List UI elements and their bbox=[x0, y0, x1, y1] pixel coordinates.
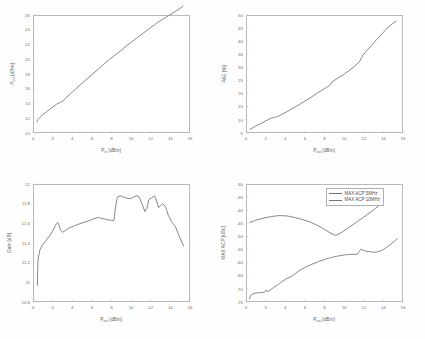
y-tick-label: -40 bbox=[237, 208, 244, 213]
x-tick-label: 8 bbox=[323, 136, 326, 141]
x-tick-label: 6 bbox=[304, 136, 307, 141]
y-tick-label: -60 bbox=[237, 260, 244, 265]
y-tick-label: -45 bbox=[237, 221, 244, 226]
y-tick-label: -75 bbox=[237, 300, 244, 305]
legend-maxacp[interactable]: MAX ACP 5MHz MAX ACP 10MHz bbox=[326, 188, 384, 206]
x-tick-label: 0 bbox=[32, 136, 35, 141]
x-tick-label: 2 bbox=[51, 136, 54, 141]
x-tick-label: 2 bbox=[51, 305, 54, 310]
y-tick-label: -50 bbox=[237, 234, 244, 239]
x-tick-label: 14 bbox=[168, 136, 173, 141]
x-tick-label: 14 bbox=[381, 136, 386, 141]
y-tick-label: 45 bbox=[238, 26, 243, 31]
x-tick-label: 4 bbox=[284, 136, 287, 141]
legend-label-10mhz: MAX ACP 10MHz bbox=[345, 197, 380, 204]
plot-svg-pout-vs-pin: 0246810121416101214161820222426 bbox=[0, 0, 213, 170]
y-tick-label: 26 bbox=[25, 13, 30, 18]
data-curve-gain bbox=[37, 196, 183, 285]
legend-line-10mhz-icon bbox=[329, 200, 342, 201]
x-tick-label: 10 bbox=[129, 136, 134, 141]
y-tick-label: 24 bbox=[25, 27, 30, 32]
y-tick-label: 12 bbox=[25, 182, 30, 187]
data-curve-pout bbox=[37, 6, 183, 122]
x-tick-label: 12 bbox=[361, 305, 366, 310]
y-tick-label: 22 bbox=[25, 42, 30, 47]
x-tick-label: 16 bbox=[188, 305, 193, 310]
y-tick-label: 11 bbox=[25, 280, 30, 285]
chart-panel-maxacp-vs-pout: 0246810121416-75-70-65-60-55-50-45-40-35… bbox=[213, 169, 425, 339]
plot-svg-gain-vs-pout: 024681012141610.81111.211.411.611.812 bbox=[0, 169, 213, 339]
data-curve-acp-10mhz bbox=[249, 239, 397, 299]
y-tick-label: 5 bbox=[241, 131, 244, 136]
y-tick-label: 11.6 bbox=[22, 221, 31, 226]
y-tick-label: 50 bbox=[238, 13, 243, 18]
x-tick-label: 12 bbox=[148, 305, 153, 310]
y-tick-label: 14 bbox=[25, 101, 30, 106]
plot-svg-pae-vs-pout: 02468101214165101520253035404550 bbox=[213, 0, 425, 170]
y-tick-label: 10.8 bbox=[21, 300, 30, 305]
y-tick-label: -35 bbox=[237, 195, 244, 200]
chart-panel-pout-vs-pin: 0246810121416101214161820222426 Pin [dBm… bbox=[0, 0, 213, 170]
y-tick-label: 35 bbox=[238, 52, 243, 57]
y-tick-label: -70 bbox=[237, 287, 244, 292]
x-tick-label: 10 bbox=[342, 136, 347, 141]
y-tick-label: -55 bbox=[237, 247, 244, 252]
x-tick-label: 12 bbox=[361, 136, 366, 141]
data-curve-pae bbox=[250, 21, 396, 129]
x-tick-label: 16 bbox=[401, 136, 406, 141]
matlab-figure-window: 0246810121416101214161820222426 Pin [dBm… bbox=[0, 0, 425, 339]
y-tick-label: 18 bbox=[25, 72, 30, 77]
x-tick-label: 8 bbox=[110, 136, 113, 141]
y-tick-label: 30 bbox=[238, 65, 243, 70]
y-tick-label: -65 bbox=[237, 273, 244, 278]
x-tick-label: 2 bbox=[264, 305, 267, 310]
x-tick-label: 6 bbox=[91, 305, 94, 310]
legend-line-5mhz-icon bbox=[329, 193, 342, 194]
x-tick-label: 16 bbox=[401, 305, 406, 310]
y-tick-label: 40 bbox=[238, 39, 243, 44]
chart-panel-gain-vs-pout: 024681012141610.81111.211.411.611.812 Po… bbox=[0, 169, 213, 339]
x-tick-label: 2 bbox=[264, 136, 267, 141]
x-tick-label: 4 bbox=[71, 136, 74, 141]
x-tick-label: 0 bbox=[32, 305, 35, 310]
y-tick-label: 25 bbox=[238, 78, 243, 83]
y-tick-label: 15 bbox=[238, 104, 243, 109]
x-tick-label: 4 bbox=[284, 305, 287, 310]
y-tick-label: 11.2 bbox=[22, 260, 31, 265]
y-tick-label: 20 bbox=[25, 57, 30, 62]
data-curve-acp-5mhz bbox=[250, 201, 383, 235]
x-tick-label: 14 bbox=[381, 305, 386, 310]
x-tick-label: 6 bbox=[304, 305, 307, 310]
legend-entry-10mhz: MAX ACP 10MHz bbox=[329, 197, 380, 204]
x-tick-label: 0 bbox=[245, 305, 248, 310]
plot-svg-maxacp-vs-pout: 0246810121416-75-70-65-60-55-50-45-40-35… bbox=[213, 169, 425, 339]
x-tick-label: 10 bbox=[342, 305, 347, 310]
y-tick-label: -30 bbox=[237, 182, 244, 187]
x-tick-label: 4 bbox=[71, 305, 74, 310]
chart-panel-pae-vs-pout: 02468101214165101520253035404550 Pout [d… bbox=[213, 0, 425, 170]
x-tick-label: 0 bbox=[245, 136, 248, 141]
x-tick-label: 8 bbox=[110, 305, 113, 310]
y-tick-label: 10 bbox=[238, 118, 243, 123]
x-tick-label: 14 bbox=[168, 305, 173, 310]
x-tick-label: 12 bbox=[148, 136, 153, 141]
x-tick-label: 6 bbox=[91, 136, 94, 141]
y-tick-label: 12 bbox=[25, 116, 30, 121]
x-tick-label: 16 bbox=[188, 136, 193, 141]
x-tick-label: 8 bbox=[323, 305, 326, 310]
y-tick-label: 20 bbox=[238, 91, 243, 96]
x-tick-label: 10 bbox=[129, 305, 134, 310]
y-tick-label: 11.4 bbox=[22, 241, 31, 246]
y-tick-label: 16 bbox=[25, 86, 30, 91]
y-tick-label: 11.8 bbox=[22, 201, 31, 206]
y-tick-label: 10 bbox=[25, 131, 30, 136]
